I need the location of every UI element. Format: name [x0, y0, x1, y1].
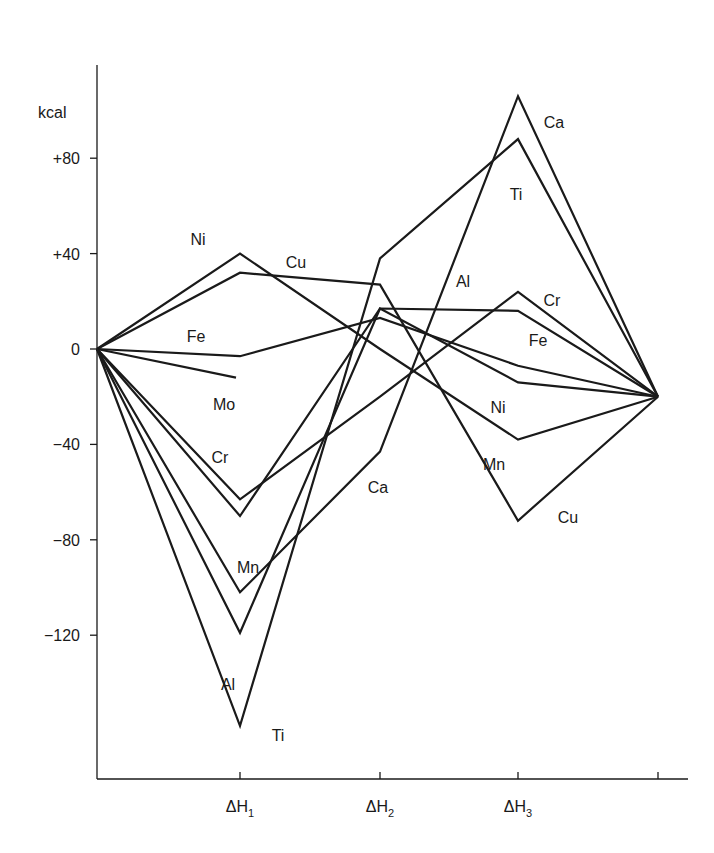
- series-label-fe: Fe: [529, 332, 548, 349]
- series-label-al: Al: [221, 676, 235, 693]
- y-tick-label: +40: [53, 246, 80, 263]
- series-line-ni: [97, 254, 658, 440]
- y-ticks: +80+400−40−80−120: [44, 150, 97, 644]
- series-label-ni: Ni: [490, 399, 505, 416]
- series-label-al: Al: [456, 273, 470, 290]
- y-tick-label: 0: [71, 341, 80, 358]
- y-tick-label: −80: [53, 532, 80, 549]
- series-line-fe: [97, 318, 658, 397]
- series-label-ca: Ca: [544, 114, 565, 131]
- y-tick-label: +80: [53, 150, 80, 167]
- series-label-fe: Fe: [187, 328, 206, 345]
- series-line-cr: [97, 292, 658, 500]
- series-label-mn: Mn: [483, 456, 505, 473]
- series-labels: NiCuFeMoCrMnAlTiCaCaTiAlCrFeNiMnCu: [187, 114, 579, 744]
- x-tick-label: ΔH2: [366, 798, 394, 819]
- enthalpy-line-chart: +80+400−40−80−120 ΔH1ΔH2ΔH3 kcal NiCuFeM…: [0, 0, 714, 853]
- series-label-cr: Cr: [212, 449, 230, 466]
- series-lines: [97, 96, 658, 726]
- series-label-ca: Ca: [368, 479, 389, 496]
- series-label-cu: Cu: [286, 254, 306, 271]
- y-tick-label: −40: [53, 436, 80, 453]
- series-label-cr: Cr: [544, 292, 562, 309]
- series-label-ni: Ni: [190, 231, 205, 248]
- y-axis-label: kcal: [38, 104, 66, 121]
- y-tick-label: −120: [44, 627, 80, 644]
- series-label-cu: Cu: [558, 509, 578, 526]
- series-label-mo: Mo: [213, 396, 235, 413]
- x-tick-label: ΔH3: [504, 798, 532, 819]
- series-label-mn: Mn: [237, 559, 259, 576]
- series-label-ti: Ti: [272, 727, 285, 744]
- x-tick-label: ΔH1: [226, 798, 254, 819]
- series-line-ti: [97, 139, 658, 726]
- series-label-ti: Ti: [510, 186, 523, 203]
